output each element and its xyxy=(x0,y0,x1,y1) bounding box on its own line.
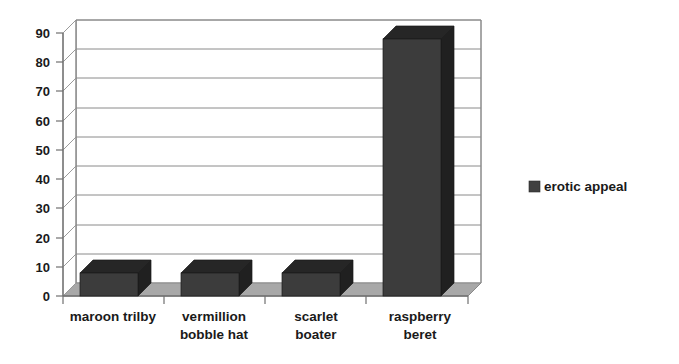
column-chart-3d: 90 80 70 60 50 40 30 20 10 0 xyxy=(0,0,679,364)
y-tick-label: 20 xyxy=(36,231,50,246)
bar-side-face xyxy=(441,26,454,296)
y-tick-labels: 90 80 70 60 50 40 30 20 10 0 xyxy=(36,26,50,304)
y-tick-label: 60 xyxy=(36,114,50,129)
y-tick-label: 30 xyxy=(36,201,50,216)
category-label-scarlet-line1: scarlet xyxy=(294,309,338,324)
y-tick-label: 0 xyxy=(43,289,50,304)
category-label-raspberry-line1: raspberry xyxy=(389,309,452,324)
y-tick-marks xyxy=(56,33,63,296)
y-tick-label: 40 xyxy=(36,172,50,187)
bar-front-face xyxy=(383,39,441,296)
bar-group-vermillion-bobble-hat[interactable] xyxy=(181,260,252,296)
bar-front-face xyxy=(80,273,138,296)
y-tick-label: 10 xyxy=(36,260,50,275)
plot-left-wall xyxy=(63,20,76,296)
y-tick-label: 70 xyxy=(36,84,50,99)
chart-legend[interactable]: erotic appeal xyxy=(529,179,627,194)
legend-swatch-erotic-appeal xyxy=(529,181,540,192)
category-label-vermillion-line1: vermillion xyxy=(182,309,246,324)
bar-group-scarlet-boater[interactable] xyxy=(282,260,353,296)
chart-container: 90 80 70 60 50 40 30 20 10 0 xyxy=(0,0,679,364)
legend-label-erotic-appeal: erotic appeal xyxy=(544,179,627,194)
category-label-raspberry-line2: beret xyxy=(403,327,437,342)
category-label-maroon-trilby: maroon trilby xyxy=(70,309,157,324)
x-tick-marks xyxy=(63,296,468,304)
y-tick-label: 50 xyxy=(36,143,50,158)
bar-group-raspberry-beret[interactable] xyxy=(383,26,454,296)
category-label-scarlet-line2: boater xyxy=(295,327,337,342)
category-label-vermillion-line2: bobble hat xyxy=(180,327,249,342)
x-axis-category-labels: maroon trilby vermillion bobble hat scar… xyxy=(70,309,452,342)
y-tick-label: 80 xyxy=(36,55,50,70)
bar-group-maroon-trilby[interactable] xyxy=(80,260,151,296)
bar-front-face xyxy=(282,273,340,296)
bar-front-face xyxy=(181,273,239,296)
y-tick-label: 90 xyxy=(36,26,50,41)
